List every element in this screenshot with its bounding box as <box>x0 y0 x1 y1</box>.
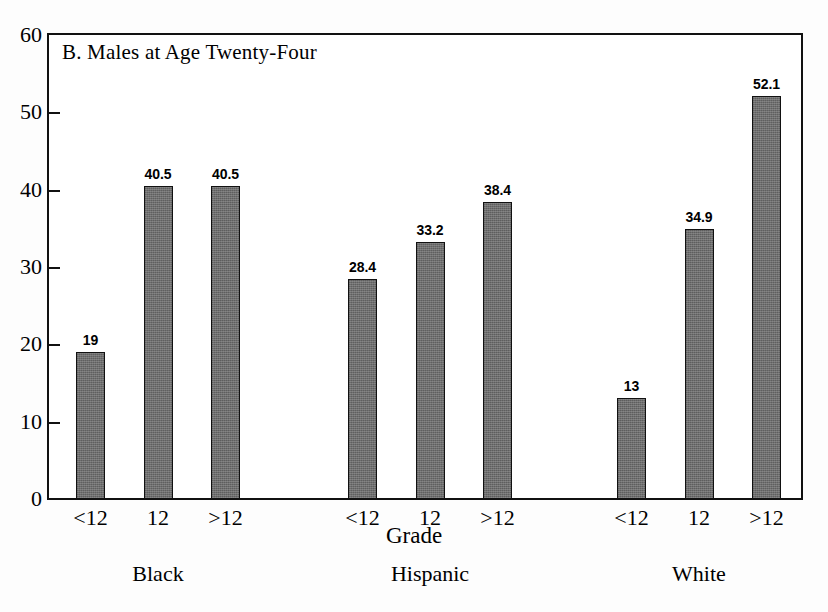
y-axis-tick-mark <box>47 422 60 424</box>
bar-value-label: 13 <box>597 379 666 393</box>
bar <box>211 186 240 499</box>
bar-value-label: 40.5 <box>124 167 193 181</box>
bar <box>617 398 646 499</box>
group-label: Hispanic <box>340 561 520 587</box>
bar-value-label: 52.1 <box>732 77 801 91</box>
y-axis-tick-label: 50 <box>2 101 42 123</box>
bar <box>483 202 512 499</box>
y-axis-tick-label: 30 <box>2 256 42 278</box>
y-axis-tick-label: 60 <box>2 24 42 46</box>
panel-title: B. Males at Age Twenty-Four <box>62 40 317 65</box>
y-axis-tick-mark <box>47 112 60 114</box>
bar-value-label: 33.2 <box>396 223 465 237</box>
y-axis-tick-label: 20 <box>2 333 42 355</box>
bar-value-label: 38.4 <box>463 183 532 197</box>
group-label: Black <box>68 561 248 587</box>
y-axis-tick-label: 0 <box>2 488 42 510</box>
bar <box>76 352 105 499</box>
bar <box>144 186 173 499</box>
bar-value-label: 40.5 <box>191 167 260 181</box>
bar-chart-figure: B. Males at Age Twenty-Four 010203040506… <box>0 0 828 612</box>
bar-value-label: 28.4 <box>328 260 397 274</box>
bar-value-label: 34.9 <box>665 210 734 224</box>
group-label: White <box>609 561 789 587</box>
bar <box>685 229 714 499</box>
bar-value-label: 19 <box>56 333 125 347</box>
y-axis: 0102030405060 <box>0 0 42 612</box>
y-axis-tick-mark <box>47 267 60 269</box>
bar <box>416 242 445 499</box>
bar <box>752 96 781 499</box>
y-axis-tick-label: 40 <box>2 179 42 201</box>
bar <box>348 279 377 499</box>
y-axis-tick-mark <box>47 190 60 192</box>
x-axis-title: Grade <box>0 523 828 549</box>
y-axis-tick-label: 10 <box>2 411 42 433</box>
